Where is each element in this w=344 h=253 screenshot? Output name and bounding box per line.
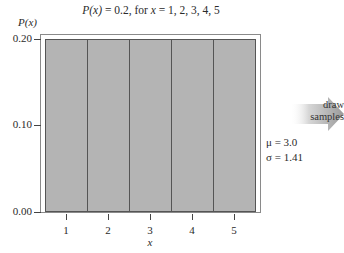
arrow-label-line1: draw xyxy=(300,99,344,111)
x-tick-mark xyxy=(108,214,109,220)
x-tick-label: 2 xyxy=(98,224,118,236)
x-tick-label: 1 xyxy=(56,224,76,236)
title-function: P(x) xyxy=(82,4,102,16)
y-axis-label: P(x) xyxy=(18,16,37,28)
title-text: = 0.2, for xyxy=(102,4,151,16)
bar-x1 xyxy=(45,39,88,212)
bar-x3 xyxy=(129,39,172,212)
x-tick-mark xyxy=(192,214,193,220)
x-tick-mark xyxy=(234,214,235,220)
std-dev-annotation: σ = 1.41 xyxy=(266,151,303,163)
x-axis-label: x xyxy=(140,236,160,248)
x-tick-mark xyxy=(66,214,67,220)
x-tick-label: 3 xyxy=(140,224,160,236)
chart-title: P(x) = 0.2, for x = 1, 2, 3, 4, 5 xyxy=(0,4,302,16)
y-tick-mark xyxy=(34,212,41,213)
bar-x5 xyxy=(213,39,256,212)
y-tick-label: 0.20 xyxy=(0,32,32,44)
x-tick-mark xyxy=(150,214,151,220)
draw-samples-label: draw samples xyxy=(300,99,344,123)
mean-annotation: μ = 3.0 xyxy=(266,136,297,148)
arrow-label-line2: samples xyxy=(300,111,344,123)
bar-group xyxy=(45,39,256,212)
x-tick-label: 4 xyxy=(182,224,202,236)
bar-x4 xyxy=(171,39,214,212)
y-tick-mark xyxy=(34,125,41,126)
title-values: = 1, 2, 3, 4, 5 xyxy=(156,4,220,16)
bar-x2 xyxy=(87,39,130,212)
x-tick-label: 5 xyxy=(224,224,244,236)
y-tick-mark xyxy=(34,39,41,40)
y-tick-label: 0.10 xyxy=(0,118,32,130)
y-tick-label: 0.00 xyxy=(0,205,32,217)
